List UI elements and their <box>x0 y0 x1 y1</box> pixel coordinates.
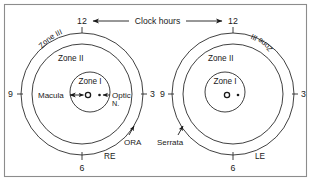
rop-zone-diagram: 12 9 3 6 Zone III Zone II Zone I Macula … <box>0 0 311 181</box>
diagram-canvas: 12 9 3 6 Zone III Zone II Zone I Macula … <box>0 0 311 181</box>
le-macula-dot <box>237 94 240 97</box>
le-zone3-circle <box>172 33 294 155</box>
re-ora-label: ORA <box>124 138 142 147</box>
le-hour-6: 6 <box>231 163 236 173</box>
re-ora-arrow <box>129 126 134 135</box>
le-zone3-label: Zone III <box>250 32 275 54</box>
clock-hours-annotation: Clock hours <box>93 16 222 26</box>
clock-hours-label: Clock hours <box>135 16 180 26</box>
re-hour-12: 12 <box>77 16 87 26</box>
re-zone3-label: Zone III <box>37 27 64 50</box>
le-hour-12: 12 <box>228 16 238 26</box>
re-optic-disc <box>85 92 90 97</box>
left-eye-group: 12 9 3 6 Zone III Zone II Zone I Serrata… <box>157 16 306 173</box>
re-zone2-label: Zone II <box>58 54 84 63</box>
re-eye-label: RE <box>104 152 116 161</box>
re-macula-dot <box>98 94 101 97</box>
le-optic-disc <box>224 92 229 97</box>
re-hour-6: 6 <box>80 163 85 173</box>
re-zone1-label: Zone I <box>78 77 101 86</box>
right-eye-group: 12 9 3 6 Zone III Zone II Zone I Macula … <box>8 16 155 173</box>
le-zone1-label: Zone I <box>213 77 236 86</box>
le-hour-9: 9 <box>160 89 165 99</box>
le-serrata-label: Serrata <box>157 138 184 147</box>
le-hour-3: 3 <box>301 89 306 99</box>
re-optic-nerve-label-line2: N. <box>112 99 119 108</box>
re-hour-9: 9 <box>8 89 13 99</box>
re-hour-3: 3 <box>150 89 155 99</box>
le-eye-label: LE <box>255 152 266 161</box>
re-macula-label: Macula <box>38 91 64 100</box>
le-serrata-arrow <box>178 126 183 135</box>
le-zone2-label: Zone II <box>208 54 234 63</box>
